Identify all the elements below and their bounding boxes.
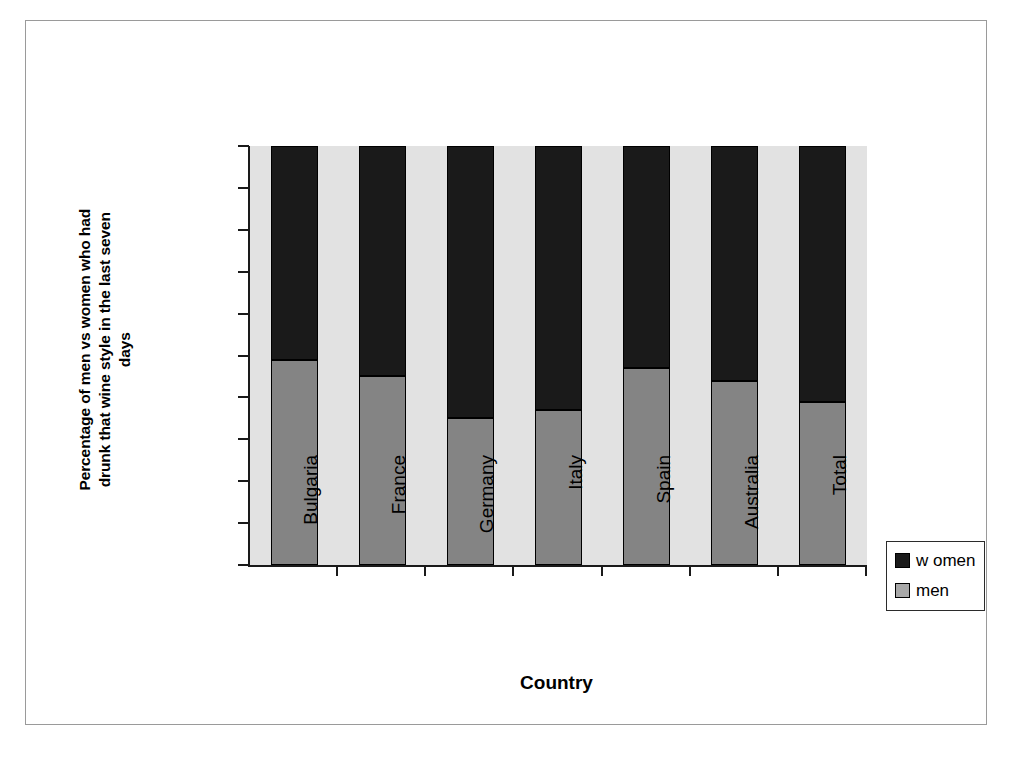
x-category-label: France [388,455,410,575]
x-tick-mark [601,565,603,576]
y-axis-title-line-3: days [115,130,135,570]
x-category-label: Germany [476,455,498,575]
x-category-label: Italy [565,455,587,575]
bar-segment-women [623,146,670,368]
bar-segment-women [535,146,582,410]
x-tick-mark [689,565,691,576]
legend-swatch-men [895,583,910,598]
x-tick-mark [512,565,514,576]
y-axis-title: Percentage of men vs women who had drunk… [75,130,134,570]
bar-segment-women [799,146,846,402]
legend-label: w omen [916,552,976,569]
plot-area [248,146,867,567]
bar-segment-women [359,146,406,376]
x-category-label: Bulgaria [300,455,322,575]
bar-segment-women [711,146,758,381]
x-category-label: Australia [741,455,763,575]
x-tick-mark [865,565,867,576]
y-axis-title-line-1: Percentage of men vs women who had [75,130,95,570]
y-axis-title-line-2: drunk that wine style in the last seven [95,130,115,570]
x-tick-mark [777,565,779,576]
x-tick-mark [424,565,426,576]
bar-segment-women [271,146,318,360]
bar-segment-women [447,146,494,418]
legend-item: men [895,581,984,600]
x-tick-mark [336,565,338,576]
x-axis-title: Country [248,672,865,694]
x-category-label: Spain [653,455,675,575]
stacked-bar-chart: Percentage of men vs women who had drunk… [0,0,1021,762]
legend-label: men [916,582,949,599]
legend-item: w omen [895,551,984,570]
chart-legend: w omenmen [886,541,985,611]
legend-swatch-women [895,553,910,568]
x-category-label: Total [829,455,851,575]
